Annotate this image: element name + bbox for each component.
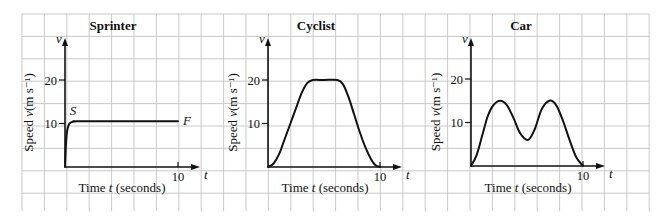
y-axis-symbol: v bbox=[259, 31, 265, 46]
x-tick-label: 10 bbox=[172, 170, 185, 184]
y-axis-label: Speed v(m s⁻¹) bbox=[225, 73, 240, 152]
cyclist-chart: Cyclistvt102010Speed v(m s⁻¹)Time t (sec… bbox=[225, 18, 410, 195]
x-tick-label: 10 bbox=[374, 170, 387, 184]
x-axis-arrow-icon bbox=[191, 164, 200, 170]
speed-curve bbox=[471, 101, 583, 166]
x-axis-symbol: t bbox=[609, 166, 613, 181]
y-tick-label: 20 bbox=[45, 74, 58, 88]
y-tick-label: 10 bbox=[45, 117, 58, 131]
x-axis-label: Time t (seconds) bbox=[282, 180, 369, 195]
speed-time-figure: Sprintervt102010Speed v(m s⁻¹)Time t (se… bbox=[0, 0, 668, 218]
y-axis-symbol: v bbox=[56, 31, 62, 46]
y-axis-label: Speed v(m s⁻¹) bbox=[428, 73, 443, 152]
x-axis-arrow-icon bbox=[393, 164, 402, 170]
chart-title: Sprinter bbox=[90, 18, 137, 33]
x-axis-label: Time t (seconds) bbox=[485, 180, 572, 195]
y-axis-arrow-icon bbox=[468, 38, 474, 46]
x-axis-symbol: t bbox=[204, 167, 208, 182]
y-tick-label: 20 bbox=[451, 73, 464, 87]
y-axis-label: Speed v(m s⁻¹) bbox=[21, 73, 36, 152]
annotation-f: F bbox=[182, 113, 192, 128]
y-tick-label: 20 bbox=[248, 74, 261, 88]
chart-title: Car bbox=[510, 18, 532, 33]
speed-curve bbox=[268, 80, 380, 167]
x-axis-label: Time t (seconds) bbox=[79, 180, 166, 195]
x-axis-symbol: t bbox=[406, 167, 410, 182]
y-axis-arrow-icon bbox=[265, 38, 271, 46]
car-chart: Carvt102010Speed v(m s⁻¹)Time t (seconds… bbox=[428, 18, 613, 195]
y-tick-label: 10 bbox=[451, 116, 464, 130]
y-axis-symbol: v bbox=[462, 31, 468, 46]
speed-curve bbox=[65, 121, 178, 167]
chart-title: Cyclist bbox=[297, 18, 336, 33]
chart-panels: Sprintervt102010Speed v(m s⁻¹)Time t (se… bbox=[21, 18, 613, 195]
annotation-s: S bbox=[70, 103, 77, 118]
sprinter-chart: Sprintervt102010Speed v(m s⁻¹)Time t (se… bbox=[21, 18, 208, 195]
y-tick-label: 10 bbox=[248, 117, 261, 131]
x-tick-label: 10 bbox=[577, 169, 590, 183]
x-axis-arrow-icon bbox=[596, 163, 605, 169]
